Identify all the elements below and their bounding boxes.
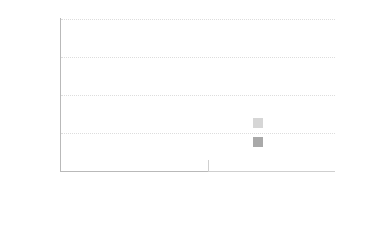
legend-item-book-value[interactable] [253,113,375,132]
x-axis-extension-line [209,171,335,172]
y-tick-100 [8,19,54,20]
legend-item-intangible-assets[interactable] [253,132,375,151]
x-axis-line [60,171,209,172]
legend-swatch-icon [253,118,263,128]
legend-swatch-icon [253,137,263,147]
y-tick-75 [8,57,54,58]
plot-right-edge-tick [208,160,209,172]
y-tick-25 [8,133,54,134]
chart-legend [253,113,375,151]
plot-area [61,19,207,171]
y-tick-50 [8,95,54,96]
y-tick-0 [8,171,54,172]
figure-caption-cutoff [6,232,366,237]
stacked-bar-chart-figure [0,0,376,237]
